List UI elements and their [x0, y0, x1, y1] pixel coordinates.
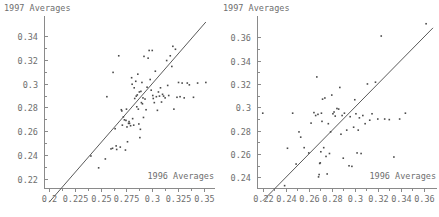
data-point — [356, 152, 358, 154]
data-point — [318, 176, 320, 178]
data-point — [349, 116, 351, 118]
data-point — [139, 91, 141, 93]
data-point — [131, 77, 133, 79]
y-axis-tick-label: 0.3 — [23, 80, 38, 90]
data-point — [315, 115, 317, 117]
y-axis-tick-label: 0.26 — [231, 150, 251, 160]
data-point — [317, 114, 319, 116]
data-point — [205, 82, 207, 84]
data-point — [106, 96, 108, 98]
data-point — [169, 55, 171, 57]
data-point — [121, 110, 123, 112]
data-point — [388, 119, 390, 121]
data-point — [129, 123, 131, 125]
data-point — [323, 147, 325, 149]
data-point — [405, 112, 407, 114]
data-point — [384, 118, 386, 120]
y-axis-tick-label: 0.24 — [18, 151, 38, 161]
data-point — [115, 145, 117, 147]
data-point — [142, 103, 144, 105]
data-point — [119, 146, 121, 148]
data-point — [320, 151, 322, 153]
x-axis-tick-label: 0.22 — [253, 194, 273, 204]
data-point — [364, 123, 366, 125]
data-point — [359, 117, 361, 119]
data-point — [329, 153, 331, 155]
data-point — [351, 166, 353, 168]
x-axis-tick-label: 0.36 — [414, 194, 434, 204]
x-axis-tick-label: 0.26 — [299, 194, 319, 204]
data-point — [179, 96, 181, 98]
data-point — [342, 157, 344, 159]
scatter-plot-figure: 0.20.2250.250.2750.30.3250.350.220.240.2… — [0, 0, 439, 217]
x-axis-tick-label: 0.3 — [145, 194, 160, 204]
data-point — [287, 147, 289, 149]
data-point — [152, 95, 154, 97]
x-axis-tick-label: 0.25 — [91, 194, 111, 204]
data-point — [90, 155, 92, 157]
data-point — [149, 79, 151, 81]
data-point — [126, 126, 128, 128]
data-point — [146, 86, 148, 88]
data-point — [155, 70, 157, 72]
scatter-plot-left: 0.20.2250.250.2750.30.3250.350.220.240.2… — [0, 0, 219, 217]
x-axis-tick-label: 0.275 — [114, 194, 140, 204]
y-axis-tick-label: 0.32 — [231, 80, 251, 90]
data-point — [147, 57, 149, 59]
data-point — [152, 98, 154, 100]
data-point — [124, 119, 126, 121]
data-point — [197, 82, 199, 84]
data-point — [159, 95, 161, 97]
data-point — [292, 112, 294, 114]
data-point — [127, 141, 129, 143]
x-axis-title: 1996 Averages — [369, 171, 436, 181]
data-point — [340, 133, 342, 135]
data-point — [166, 60, 168, 62]
data-point — [163, 95, 165, 97]
data-point — [339, 87, 341, 89]
data-point — [138, 123, 140, 125]
data-point — [150, 89, 152, 91]
data-point — [110, 148, 112, 150]
data-point — [336, 108, 338, 110]
data-point — [136, 94, 138, 96]
data-point — [154, 102, 156, 104]
data-point — [353, 126, 355, 128]
data-point — [148, 50, 150, 52]
data-point — [178, 82, 180, 84]
data-point — [125, 149, 127, 151]
data-point — [334, 115, 336, 117]
data-point — [131, 83, 133, 85]
data-point — [133, 87, 135, 89]
data-point — [176, 96, 178, 98]
data-point — [341, 115, 343, 117]
data-point — [330, 131, 332, 133]
data-point — [362, 115, 364, 117]
data-point — [333, 111, 335, 113]
y-axis-tick-label: 0.36 — [231, 33, 251, 43]
data-point — [167, 85, 169, 87]
data-point — [144, 98, 146, 100]
data-point — [316, 76, 318, 78]
data-point — [118, 55, 120, 57]
data-point — [151, 50, 153, 52]
data-point — [114, 128, 116, 130]
data-point — [331, 94, 333, 96]
data-point — [298, 131, 300, 133]
y-axis-tick-label: 0.26 — [18, 127, 38, 137]
data-point — [143, 117, 145, 119]
y-axis-tick-label: 0.32 — [18, 56, 38, 66]
data-point — [183, 97, 185, 99]
data-point — [319, 162, 321, 164]
data-point — [116, 149, 118, 151]
data-point — [367, 83, 369, 85]
y-axis-tick-label: 0.28 — [231, 127, 251, 137]
data-point — [324, 97, 326, 99]
data-point — [355, 113, 357, 115]
data-point — [328, 123, 330, 125]
data-point — [160, 87, 162, 89]
data-point — [189, 84, 191, 86]
data-point — [318, 174, 320, 176]
y-axis-tick-label: 0.22 — [18, 175, 38, 185]
data-point — [322, 98, 324, 100]
